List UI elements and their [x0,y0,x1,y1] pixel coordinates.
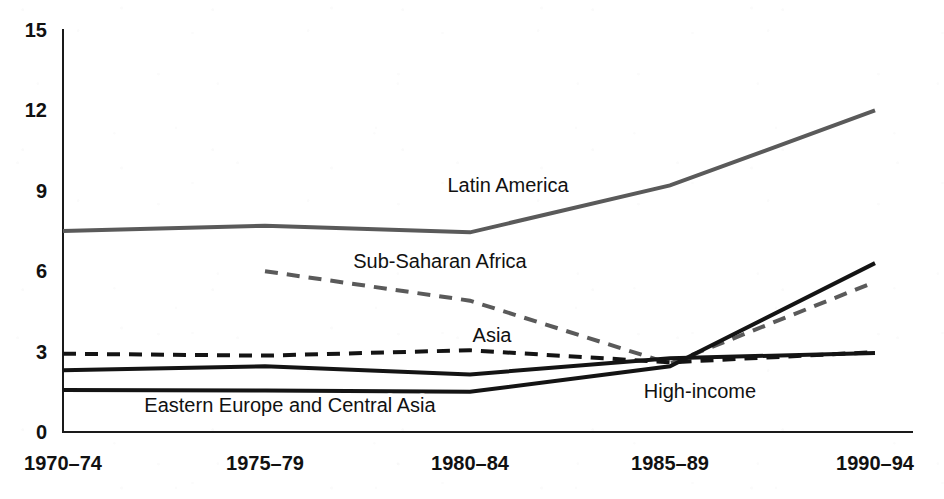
y-tick-label: 12 [25,99,47,121]
x-tick-label: 1975–79 [226,452,304,474]
x-tick-label: 1990–94 [836,452,915,474]
y-tick-label: 0 [36,421,47,443]
y-tick-label: 3 [36,341,47,363]
series-annotation-label: High-income [644,380,756,402]
y-tick-label: 6 [36,260,47,282]
line-chart-plot: 03691215 1970–741975–791980–841985–89199… [0,0,944,499]
y-axis-tick-labels: 03691215 [25,19,47,443]
series-line-latin-america [63,110,875,232]
y-tick-label: 9 [36,180,47,202]
series-annotation-label: Asia [473,324,513,346]
y-tick-label: 15 [25,19,47,41]
x-tick-label: 1970–74 [24,452,103,474]
series-line-sub-saharan-africa [265,271,875,363]
x-tick-label: 1980–84 [431,452,510,474]
series-annotation-label: Sub-Saharan Africa [353,250,527,272]
series-annotation-label: Eastern Europe and Central Asia [144,394,436,416]
series-annotation-label: Latin America [447,174,569,196]
x-tick-label: 1985–89 [631,452,709,474]
series-annotation-group: Latin AmericaLatin AmericaSub-Saharan Af… [144,174,756,416]
x-axis-tick-labels: 1970–741975–791980–841985–891990–94 [24,452,915,474]
chart-figure: 03691215 1970–741975–791980–841985–89199… [0,0,944,499]
